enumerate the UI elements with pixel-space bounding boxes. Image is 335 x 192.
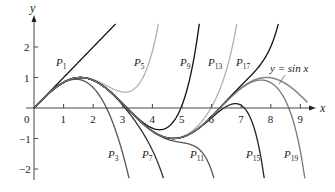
y-axis-arrow-icon (32, 15, 37, 22)
label-p1: P1 (55, 56, 67, 71)
origin-label: 0 (24, 113, 30, 125)
x-tick-label: 9 (297, 113, 303, 125)
x-tick-label: 8 (268, 113, 274, 125)
label-p13: P13 (207, 56, 222, 71)
curve-p7 (34, 78, 164, 179)
label-p19: P19 (283, 148, 298, 163)
x-tick-label: 6 (209, 113, 215, 125)
label-p5: P5 (133, 56, 145, 71)
y-tick-label: 1 (24, 72, 30, 84)
x-tick-label: 2 (90, 113, 96, 125)
x-axis-arrow-icon (309, 106, 316, 111)
curve-labels: y = sin xP1P3P5P7P9P11P13P15P17P19 (55, 56, 308, 163)
y-tick-label: −2 (19, 163, 31, 175)
x-tick-label: 7 (238, 113, 244, 125)
label-p7: P7 (141, 148, 153, 163)
taylor-polynomials-chart: 123456789 21−1−2 x y 0 y = sin xP1P3P5P7… (0, 0, 335, 192)
x-tick-label: 4 (149, 113, 155, 125)
label-p3: P3 (107, 148, 119, 163)
x-ticks: 123456789 (61, 104, 304, 125)
label-p15: P15 (245, 148, 260, 163)
label-p17: P17 (235, 56, 250, 71)
y-axis-label: y (29, 1, 36, 15)
curve-p19 (34, 78, 305, 179)
x-tick-label: 3 (120, 113, 126, 125)
label-p11: P11 (189, 148, 204, 163)
label-p9: P9 (179, 56, 191, 71)
curve-p9 (34, 24, 200, 130)
x-tick-label: 5 (179, 113, 185, 125)
y-tick-label: 2 (24, 41, 30, 53)
y-tick-label: −1 (19, 133, 31, 145)
sin-x-label: y = sin x (269, 62, 308, 74)
curves-layer (34, 24, 308, 178)
x-axis-label: x (319, 101, 326, 115)
x-tick-label: 1 (61, 113, 67, 125)
